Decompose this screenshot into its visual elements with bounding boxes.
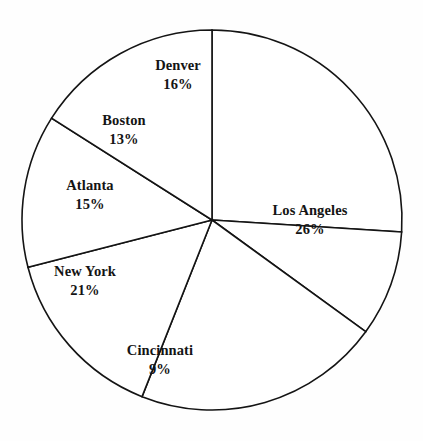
pie-chart-canvas	[0, 0, 423, 441]
pie-slices-group	[22, 30, 402, 410]
pie-chart: Los Angeles26%Cincinnati9%New York21%Atl…	[0, 0, 423, 441]
pie-slice-los-angeles[interactable]	[212, 30, 402, 232]
